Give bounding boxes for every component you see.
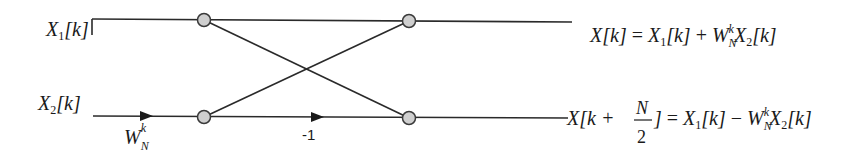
butterfly-diagram: X1[k] X2[k] WNk -1 X[k] = X1[k] + WNkX2[… xyxy=(0,0,865,158)
fraction-denominator: 2 xyxy=(637,127,646,147)
negate-label: -1 xyxy=(302,126,315,143)
top-rail xyxy=(92,19,572,22)
node-n4 xyxy=(403,112,416,125)
signal-paths xyxy=(92,19,572,118)
node-n1 xyxy=(198,14,211,27)
input-x2-label: X2[k] xyxy=(37,92,81,117)
bottom-rail xyxy=(93,116,568,118)
node-n2 xyxy=(198,111,211,124)
output-top-equation: X[k] = X1[k] + WNkX2[k] xyxy=(589,22,777,50)
negate-arrow-icon xyxy=(311,112,324,122)
fraction-numerator: N xyxy=(635,98,649,118)
output-bottom-lhs: X[k + xyxy=(566,107,614,129)
node-n3 xyxy=(403,15,416,28)
twiddle-arrow-icon xyxy=(140,111,153,121)
twiddle-factor-label: WNk xyxy=(124,121,150,153)
output-bottom-equation: X[k + N 2 ] = X1[k] − WNkX2[k] xyxy=(566,98,812,147)
input-x1-label: X1[k] xyxy=(45,18,89,43)
output-bottom-rhs: ] = X1[k] − WNkX2[k] xyxy=(653,105,812,133)
